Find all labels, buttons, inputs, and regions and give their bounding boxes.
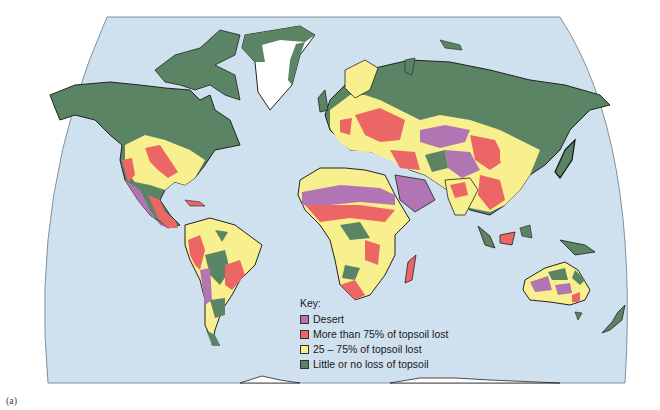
moderate-loss-swatch	[300, 345, 309, 354]
key-title: Key:	[300, 296, 448, 311]
key-label: More than 75% of topsoil lost	[313, 327, 448, 342]
little-loss-swatch	[300, 360, 309, 369]
key-label: Little or no loss of topsoil	[313, 357, 429, 372]
key-item-moderate-loss: 25 – 75% of topsoil lost	[300, 342, 448, 357]
key-label: 25 – 75% of topsoil lost	[313, 342, 422, 357]
figure-caption: (a)	[6, 395, 17, 406]
key-item-severe-loss: More than 75% of topsoil lost	[300, 327, 448, 342]
map-key: Key: Desert More than 75% of topsoil los…	[300, 296, 448, 372]
key-item-desert: Desert	[300, 312, 448, 327]
desert-swatch	[300, 315, 309, 324]
key-label: Desert	[313, 312, 344, 327]
severe-loss-swatch	[300, 330, 309, 339]
key-item-little-loss: Little or no loss of topsoil	[300, 357, 448, 372]
